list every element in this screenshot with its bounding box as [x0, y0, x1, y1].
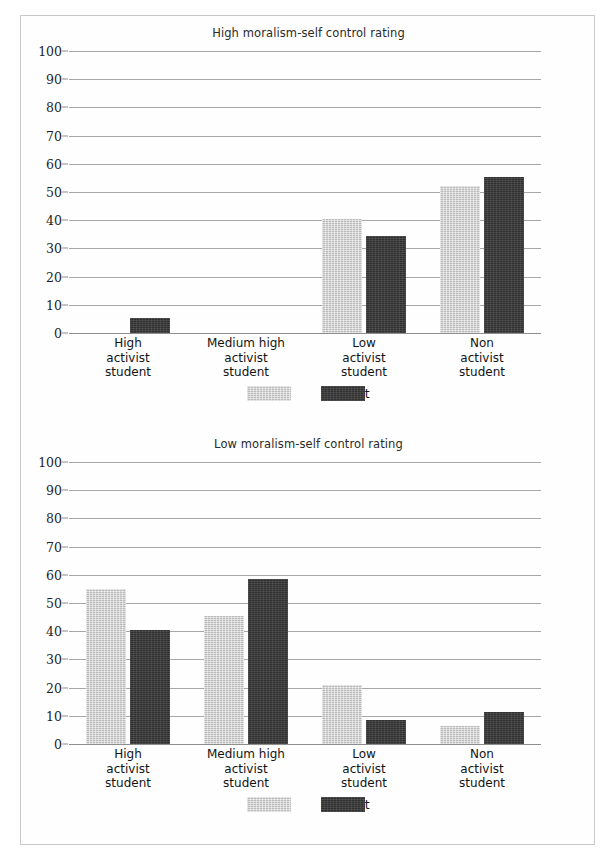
- y-tick-mark-60: [62, 163, 68, 164]
- y-tick-label-10: 10: [46, 708, 62, 723]
- bar-group: [305, 51, 423, 333]
- x-axis-labels-low: HighactiviststudentMedium highactivistst…: [69, 747, 541, 795]
- y-tick-label-40: 40: [46, 213, 62, 228]
- y-tick-mark-80: [62, 107, 68, 108]
- x-axis-label-line: activist: [305, 762, 423, 777]
- x-axis-label-line: activist: [423, 762, 541, 777]
- chart-title: High moralism-self control rating: [21, 26, 596, 40]
- y-tick-label-50: 50: [46, 185, 62, 200]
- x-axis-label-line: activist: [305, 351, 423, 366]
- x-axis-label-line: student: [187, 776, 305, 791]
- y-tick-label-70: 70: [46, 128, 62, 143]
- x-axis-label-line: student: [423, 365, 541, 380]
- y-tick-mark-70: [62, 135, 68, 136]
- y-tick-mark-80: [62, 518, 68, 519]
- y-tick-label-90: 90: [46, 483, 62, 498]
- x-axis-label-line: student: [187, 365, 305, 380]
- x-axis-labels-high: HighactiviststudentMedium highactivistst…: [69, 336, 541, 384]
- y-tick-mark-100: [62, 51, 68, 52]
- x-axis-label-line: Low: [305, 336, 423, 351]
- bar-father: [440, 186, 480, 333]
- x-axis-label-line: Non: [423, 336, 541, 351]
- bar-father: [440, 726, 480, 744]
- bar-father: [86, 589, 126, 744]
- x-axis-label-line: student: [305, 365, 423, 380]
- y-tick-label-90: 90: [46, 72, 62, 87]
- plot-area-high: 0102030405060708090100: [69, 51, 541, 333]
- x-axis-label-line: High: [69, 336, 187, 351]
- y-tick-mark-40: [62, 631, 68, 632]
- legend-high: Father Student: [21, 386, 596, 401]
- x-axis-label: Highactiviststudent: [69, 336, 187, 380]
- y-tick-label-50: 50: [46, 596, 62, 611]
- bar-student: [484, 712, 524, 744]
- legend-swatch-student: [321, 386, 365, 401]
- plot-area-low: 0102030405060708090100: [69, 462, 541, 744]
- legend-swatch-father: [247, 386, 291, 401]
- bar-student: [130, 318, 170, 334]
- gridline-0: [69, 744, 541, 745]
- x-axis-label-line: High: [69, 747, 187, 762]
- bar-group: [69, 51, 187, 333]
- bar-group: [187, 462, 305, 744]
- y-tick-mark-50: [62, 603, 68, 604]
- bar-group: [423, 462, 541, 744]
- x-axis-label-line: Medium high: [187, 747, 305, 762]
- bar-student: [366, 720, 406, 744]
- y-tick-mark-50: [62, 192, 68, 193]
- x-axis-label-line: activist: [187, 351, 305, 366]
- y-tick-label-0: 0: [54, 737, 62, 752]
- x-axis-label-line: Low: [305, 747, 423, 762]
- y-tick-mark-60: [62, 574, 68, 575]
- x-axis-label-line: student: [69, 776, 187, 791]
- y-tick-mark-90: [62, 490, 68, 491]
- x-axis-label-line: activist: [69, 762, 187, 777]
- x-axis-label-line: Non: [423, 747, 541, 762]
- legend-item-student: Student: [321, 386, 370, 401]
- y-tick-label-60: 60: [46, 156, 62, 171]
- y-tick-mark-70: [62, 546, 68, 547]
- x-axis-label: Lowactiviststudent: [305, 336, 423, 380]
- y-tick-label-70: 70: [46, 539, 62, 554]
- y-tick-mark-100: [62, 462, 68, 463]
- gridline-0: [69, 333, 541, 334]
- x-axis-label-line: student: [423, 776, 541, 791]
- x-axis-label: Nonactiviststudent: [423, 747, 541, 791]
- y-tick-mark-20: [62, 276, 68, 277]
- bar-father: [322, 219, 362, 333]
- chart-title: Low moralism-self control rating: [21, 437, 596, 451]
- y-tick-label-100: 100: [38, 455, 62, 470]
- y-tick-label-0: 0: [54, 326, 62, 341]
- y-tick-mark-0: [62, 333, 68, 334]
- bar-student: [248, 579, 288, 744]
- bar-group: [423, 51, 541, 333]
- legend-item-father: Father: [247, 797, 286, 812]
- legend-item-student: Student: [321, 797, 370, 812]
- y-tick-mark-0: [62, 744, 68, 745]
- y-tick-label-20: 20: [46, 680, 62, 695]
- y-tick-mark-10: [62, 304, 68, 305]
- bar-group: [69, 462, 187, 744]
- x-axis-label: Medium highactiviststudent: [187, 747, 305, 791]
- y-tick-mark-10: [62, 715, 68, 716]
- y-tick-label-10: 10: [46, 297, 62, 312]
- chart-high-moralism: High moralism-self control rating 010203…: [21, 20, 596, 425]
- bar-group: [187, 51, 305, 333]
- figure-frame: High moralism-self control rating 010203…: [20, 15, 595, 845]
- x-axis-label-line: activist: [423, 351, 541, 366]
- y-tick-mark-90: [62, 79, 68, 80]
- x-axis-label: Lowactiviststudent: [305, 747, 423, 791]
- x-axis-label-line: Medium high: [187, 336, 305, 351]
- x-axis-label: Nonactiviststudent: [423, 336, 541, 380]
- y-tick-mark-20: [62, 687, 68, 688]
- bar-student: [484, 177, 524, 334]
- y-tick-label-20: 20: [46, 269, 62, 284]
- y-tick-label-80: 80: [46, 100, 62, 115]
- x-axis-label-line: student: [69, 365, 187, 380]
- legend-item-father: Father: [247, 386, 286, 401]
- bar-student: [366, 236, 406, 333]
- bar-group: [305, 462, 423, 744]
- legend-swatch-student: [321, 797, 365, 812]
- chart-low-moralism: Low moralism-self control rating 0102030…: [21, 431, 596, 841]
- y-tick-label-80: 80: [46, 511, 62, 526]
